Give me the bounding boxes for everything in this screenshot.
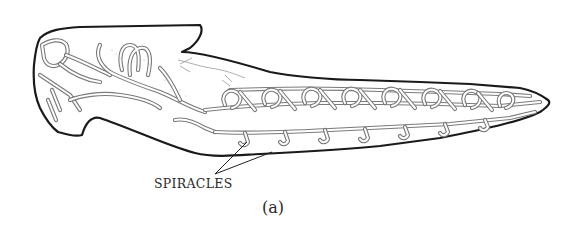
thoracic-tracheae (98, 45, 215, 132)
panel-label: (a) (262, 198, 284, 217)
spiracles-label: SPIRACLES (154, 176, 233, 191)
larva-tracheal-diagram (0, 0, 567, 226)
